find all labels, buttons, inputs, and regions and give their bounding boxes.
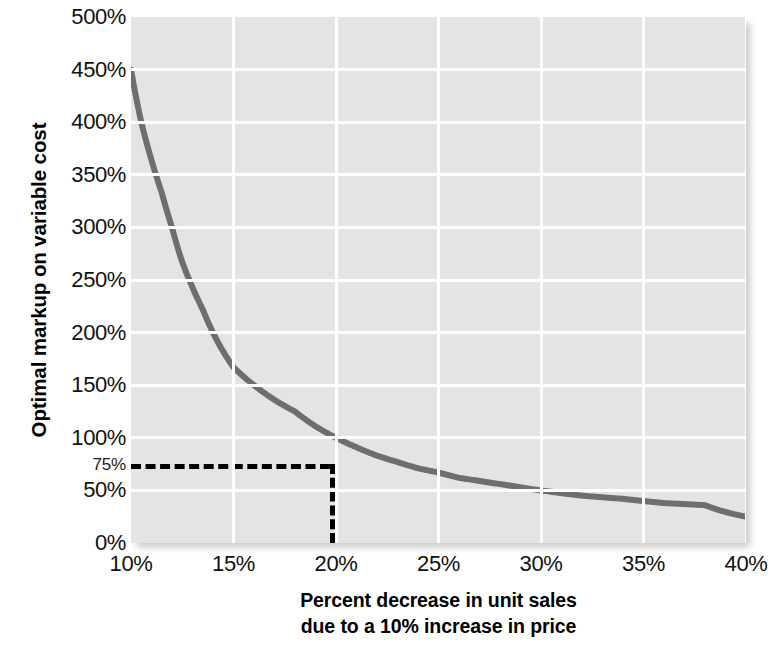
gridline-horizontal xyxy=(131,331,746,334)
y-axis-tick-label: 450% xyxy=(0,59,126,81)
gridline-horizontal xyxy=(131,121,746,124)
y-axis-tick-label: 300% xyxy=(0,216,126,238)
y-axis-tick-label: 50% xyxy=(0,479,126,501)
x-axis-title-line-2: due to a 10% increase in price xyxy=(131,614,746,640)
gridline-horizontal xyxy=(131,226,746,229)
x-axis-tick-label: 20% xyxy=(281,551,391,576)
x-axis-tick-label: 25% xyxy=(384,551,494,576)
gridline-horizontal xyxy=(131,489,746,492)
x-axis-title: Percent decrease in unit sales due to a … xyxy=(131,588,746,639)
x-axis-tick-label: 40% xyxy=(691,551,768,576)
plot-area xyxy=(131,17,746,543)
y-axis-tick-label: 100% xyxy=(0,427,126,449)
y-axis-tick-label: 200% xyxy=(0,322,126,344)
y-axis-tick-label: 250% xyxy=(0,269,126,291)
x-axis-tick-label: 15% xyxy=(179,551,289,576)
x-axis-tick-labels: 10%15%20%25%30%35%40% xyxy=(131,551,746,585)
y-axis-tick-label: 400% xyxy=(0,111,126,133)
gridline-horizontal xyxy=(131,68,746,71)
y-axis-tick-label: 500% xyxy=(0,6,126,28)
chart-figure: Optimal markup on variable cost 0%50%100… xyxy=(0,0,768,646)
y-axis-tick-labels: 0%50%100%150%200%250%300%350%400%450%500… xyxy=(0,0,126,646)
x-axis-tick-label: 10% xyxy=(76,551,186,576)
gridline-horizontal xyxy=(131,436,746,439)
plot-grid xyxy=(131,17,746,543)
gridline-horizontal xyxy=(131,279,746,282)
y-axis-tick-label: 150% xyxy=(0,374,126,396)
x-axis-title-line-1: Percent decrease in unit sales xyxy=(131,588,746,614)
y-axis-annotation-tick-label: 75% xyxy=(0,456,126,473)
y-axis-tick-label: 350% xyxy=(0,164,126,186)
x-axis-tick-label: 30% xyxy=(486,551,596,576)
gridline-horizontal xyxy=(131,173,746,176)
gridline-horizontal xyxy=(131,384,746,387)
x-axis-tick-label: 35% xyxy=(589,551,699,576)
